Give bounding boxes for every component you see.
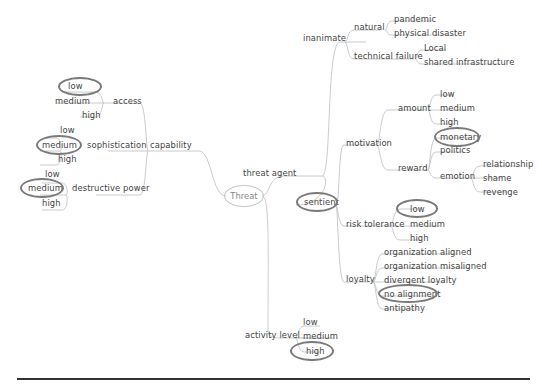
node-risk-tolerance[interactable]: risk tolerance [346,219,405,229]
node-emotion[interactable]: emotion [440,171,475,181]
node-amount-low[interactable]: low [440,89,455,99]
node-activity-level[interactable]: activity level [245,330,300,340]
node-local[interactable]: Local [424,43,446,53]
node-activity-medium[interactable]: medium [303,331,338,341]
node-access-high[interactable]: high [82,110,101,120]
node-politics[interactable]: politics [440,145,470,155]
node-threat-agent[interactable]: threat agent [243,168,296,178]
node-divergent-loyalty[interactable]: divergent loyalty [384,275,457,285]
node-loyalty[interactable]: loyalty [346,274,375,284]
node-shame[interactable]: shame [483,173,512,183]
node-amount-high[interactable]: high [440,117,459,127]
node-organization-misaligned[interactable]: organization misaligned [384,261,487,271]
node-shared-infrastructure[interactable]: shared infrastructure [424,57,514,67]
selected-ring-risk-low [396,199,438,218]
threat-mind-map: Threat capability access low medium high… [0,0,542,385]
selected-ring-access-low [58,77,102,96]
root-node-threat[interactable]: Threat [224,185,264,207]
node-organization-aligned[interactable]: organization aligned [384,247,472,257]
selected-ring-no-alignment [378,284,438,303]
node-physical-disaster[interactable]: physical disaster [394,28,466,38]
node-relationship[interactable]: relationship [483,159,533,169]
node-destructive-power[interactable]: destructive power [72,183,149,193]
node-amount-medium[interactable]: medium [440,103,475,113]
node-motivation[interactable]: motivation [346,138,392,148]
node-sophistication-high[interactable]: high [58,154,77,164]
horizontal-rule [17,378,530,380]
node-sophistication[interactable]: sophistication [87,140,147,150]
node-amount[interactable]: amount [398,103,431,113]
node-antipathy[interactable]: antipathy [384,303,425,313]
node-inanimate[interactable]: inanimate [303,33,346,43]
node-revenge[interactable]: revenge [483,187,518,197]
node-destructive-power-high[interactable]: high [42,198,61,208]
selected-ring-destructive-medium [20,178,64,198]
node-sophistication-low[interactable]: low [60,125,75,135]
node-access[interactable]: access [113,96,142,106]
selected-ring-activity-high [290,341,334,361]
node-risk-high[interactable]: high [410,233,429,243]
selected-ring-monetary [434,127,480,147]
node-natural[interactable]: natural [354,22,385,32]
node-pandemic[interactable]: pandemic [394,14,436,24]
node-technical-failure[interactable]: technical failure [354,51,423,61]
selected-ring-sophistication-medium [36,135,82,155]
node-capability[interactable]: capability [150,140,192,150]
selected-ring-sentient [296,192,338,212]
node-activity-low[interactable]: low [303,317,318,327]
node-risk-medium[interactable]: medium [410,219,445,229]
node-access-medium[interactable]: medium [55,96,90,106]
node-reward[interactable]: reward [398,163,428,173]
